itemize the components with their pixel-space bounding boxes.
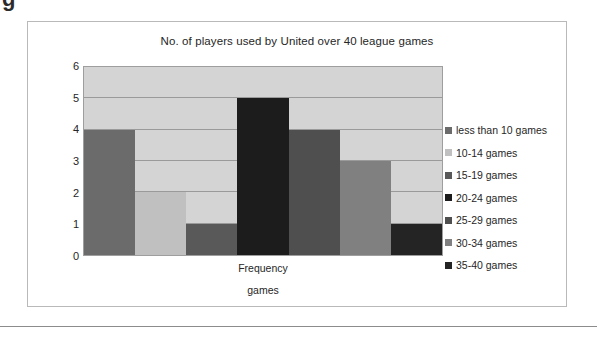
legend-item[interactable]: 10-14 games	[445, 142, 563, 165]
legend-label: 15-19 games	[456, 169, 517, 181]
legend-item[interactable]: 15-19 games	[445, 164, 563, 187]
page-divider-rule	[0, 326, 597, 327]
y-tick-label: 6	[49, 60, 79, 72]
legend-swatch-icon	[445, 262, 452, 269]
clipped-page-glyph: g	[2, 0, 15, 10]
legend-label: 10-14 games	[456, 147, 517, 159]
legend-label: 35-40 games	[456, 259, 517, 271]
legend-swatch-icon	[445, 239, 452, 246]
legend-item[interactable]: 35-40 games	[445, 254, 563, 277]
category-axis-label: Frequency	[83, 262, 443, 274]
plot-wrapper: 6543210	[83, 66, 443, 256]
bar	[237, 98, 288, 255]
legend-swatch-icon	[445, 127, 452, 134]
legend-item[interactable]: 25-29 games	[445, 209, 563, 232]
legend-label: 20-24 games	[456, 192, 517, 204]
legend-item[interactable]: 20-24 games	[445, 187, 563, 210]
x-axis-title: games	[83, 284, 443, 296]
chart-title: No. of players used by United over 40 le…	[28, 35, 566, 47]
bar	[186, 224, 237, 255]
chart-legend: less than 10 games10-14 games15-19 games…	[445, 119, 563, 277]
legend-item[interactable]: 30-34 games	[445, 232, 563, 255]
legend-swatch-icon	[445, 149, 452, 156]
y-tick-label: 3	[49, 155, 79, 167]
bar	[391, 224, 442, 255]
y-tick-label: 0	[49, 250, 79, 262]
legend-label: 30-34 games	[456, 237, 517, 249]
y-tick-label: 4	[49, 123, 79, 135]
bar	[84, 130, 135, 255]
legend-swatch-icon	[445, 172, 452, 179]
bar	[289, 130, 340, 255]
plot-area	[83, 66, 443, 256]
y-tick-label: 5	[49, 92, 79, 104]
chart-figure-frame: No. of players used by United over 40 le…	[27, 21, 567, 307]
bar	[340, 161, 391, 255]
legend-label: 25-29 games	[456, 214, 517, 226]
y-tick-label: 1	[49, 218, 79, 230]
bar	[135, 192, 186, 255]
y-tick-label: 2	[49, 187, 79, 199]
legend-swatch-icon	[445, 217, 452, 224]
legend-swatch-icon	[445, 194, 452, 201]
legend-item[interactable]: less than 10 games	[445, 119, 563, 142]
y-axis-ticks: 6543210	[49, 66, 79, 256]
bar-series	[84, 67, 442, 255]
legend-label: less than 10 games	[456, 124, 547, 136]
